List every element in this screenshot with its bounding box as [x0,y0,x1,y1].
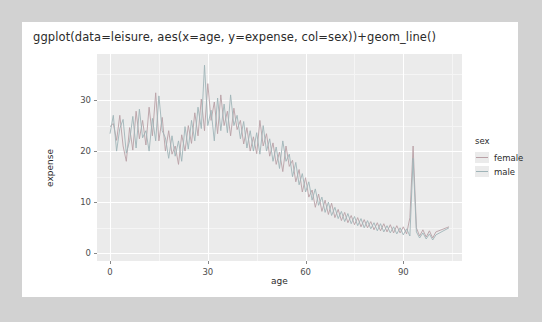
page-title: ggplot(data=leisure, aes(x=age, y=expens… [33,30,436,44]
legend-item-male[interactable]: male [475,165,535,178]
legend-swatch-icon [475,152,489,163]
y-tick-label: 30 [45,95,91,105]
legend-item-label: male [494,167,515,177]
y-tick-label: 10 [45,197,91,207]
legend-swatch-icon [475,166,489,177]
x-tick-label: 30 [188,267,228,277]
x-tick-mark [208,261,209,264]
x-tick-label: 0 [90,267,130,277]
legend-items: femalemale [475,151,535,178]
x-tick-mark [403,261,404,264]
legend-item-label: female [494,153,523,163]
y-tick-label: 0 [45,248,91,258]
y-tick-mark [94,100,97,101]
x-axis-label: age [97,276,462,286]
y-tick-mark [94,202,97,203]
x-tick-label: 60 [286,267,326,277]
series-line-female [110,84,449,238]
x-tick-mark [306,261,307,264]
x-tick-label: 90 [383,267,423,277]
x-tick-mark [110,261,111,264]
y-tick-label: 20 [45,146,91,156]
legend: sex femalemale [475,136,535,179]
chart-panel [97,54,462,261]
chart-lines [97,54,462,261]
y-tick-mark [94,151,97,152]
legend-item-female[interactable]: female [475,151,535,164]
legend-title: sex [475,136,535,146]
y-tick-mark [94,253,97,254]
plot-card: ggplot(data=leisure, aes(x=age, y=expens… [22,22,518,297]
chart-container: expense age sex femalemale 0102030030609… [35,48,505,288]
